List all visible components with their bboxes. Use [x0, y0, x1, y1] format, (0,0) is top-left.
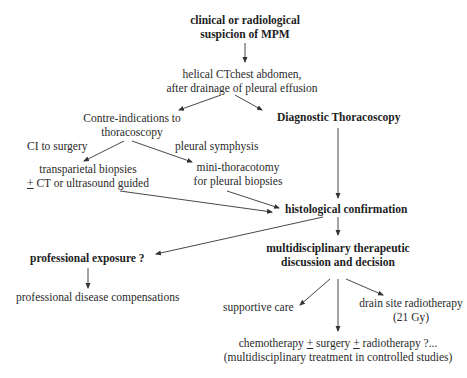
compensations-label: professional disease compensations — [16, 290, 180, 304]
arrow-minithoracotomy-to-histological — [227, 191, 279, 208]
suspicion-line-1: clinical or radiological — [190, 13, 300, 27]
arrow-multidisciplinary-to-supportive — [300, 279, 330, 305]
drain-site-line-1: drain site radiotherapy — [359, 296, 462, 310]
node-histological-confirmation: histological confirmation — [285, 202, 407, 216]
node-multidisciplinary-decision: multidisciplinary therapeutic discussion… — [266, 241, 409, 269]
edge-label-ci-to-surgery: CI to surgery — [27, 139, 87, 153]
drain-site-line-2: (21 Gy) — [359, 310, 462, 324]
node-professional-compensations: professional disease compensations — [16, 290, 180, 304]
multidisciplinary-line-1: multidisciplinary therapeutic — [266, 241, 409, 255]
thoracoscopy-label: Diagnostic Thoracoscopy — [277, 110, 400, 124]
chemo-line-1: chemotherapy + surgery + radiotherapy ?.… — [224, 336, 453, 350]
supportive-care-label: supportive care — [223, 300, 294, 314]
transparietal-line-1: transparietal biopsies — [27, 162, 149, 176]
arrow-contraindications-to-transparietal — [84, 141, 124, 161]
edge-label-pleural-symphysis: pleural symphysis — [175, 139, 258, 153]
node-suspicion: clinical or radiological suspicion of MP… — [190, 13, 300, 41]
arrow-ct-to-thoracoscopy — [235, 95, 262, 110]
transparietal-line-2: + CT or ultrasound guided — [27, 176, 149, 190]
contraindications-line-1: Contre-indications to — [83, 111, 180, 125]
ct-line-1: helical CTchest abdomen, — [166, 67, 317, 81]
chemo-line-2: (multidisciplinary treatment in controll… — [224, 350, 453, 364]
suspicion-line-2: suspicion of MPM — [190, 27, 300, 41]
arrow-ct-to-contraindications — [179, 95, 221, 110]
professional-exposure-label: professional exposure ? — [30, 251, 145, 265]
node-diagnostic-thoracoscopy: Diagnostic Thoracoscopy — [277, 110, 400, 124]
node-chemotherapy: chemotherapy + surgery + radiotherapy ?.… — [224, 336, 453, 364]
pleural-symphysis-label: pleural symphysis — [175, 140, 258, 152]
arrow-multidisciplinary-to-drain-site — [346, 279, 383, 295]
multidisciplinary-line-2: discussion and decision — [266, 255, 409, 269]
contraindications-line-2: thoracoscopy — [83, 125, 180, 139]
node-ct-scan: helical CTchest abdomen, after drainage … — [166, 67, 317, 95]
minithoracotomy-line-1: mini-thoracotomy — [194, 160, 283, 174]
node-supportive-care: supportive care — [223, 300, 294, 314]
node-contraindications: Contre-indications to thoracoscopy — [83, 111, 180, 139]
node-mini-thoracotomy: mini-thoracotomy for pleural biopsies — [194, 160, 283, 188]
histological-label: histological confirmation — [285, 202, 407, 216]
minithoracotomy-line-2: for pleural biopsies — [194, 174, 283, 188]
ct-line-2: after drainage of pleural effusion — [166, 81, 317, 95]
ci-surgery-label: CI to surgery — [27, 140, 87, 152]
arrow-transparietal-to-histological — [120, 191, 272, 212]
node-professional-exposure: professional exposure ? — [30, 251, 145, 265]
node-drain-site-radiotherapy: drain site radiotherapy (21 Gy) — [359, 296, 462, 324]
node-transparietal-biopsies: transparietal biopsies + CT or ultrasoun… — [27, 162, 149, 190]
